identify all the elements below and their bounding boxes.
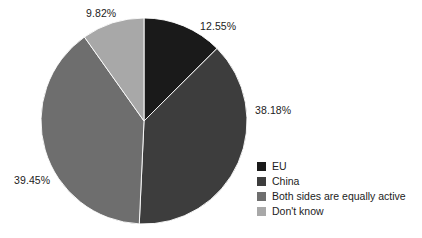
slice-value-label-dont-know: 9.82% (86, 8, 116, 19)
legend-item-label: EU (272, 161, 287, 172)
legend-swatch-icon (257, 192, 266, 201)
legend-item[interactable]: Both sides are equally active (257, 190, 406, 203)
legend-item[interactable]: China (257, 175, 406, 188)
legend-item-label: China (272, 176, 299, 187)
slice-value-label-china: 38.18% (255, 105, 291, 116)
legend-swatch-icon (257, 177, 266, 186)
pie-chart-figure: 9.82% 12.55% 38.18% 39.45% EUChinaBoth s… (0, 0, 422, 238)
legend-swatch-icon (257, 207, 266, 216)
legend-item[interactable]: Don't know (257, 205, 406, 218)
legend-item[interactable]: EU (257, 160, 406, 173)
legend-item-label: Both sides are equally active (272, 191, 406, 202)
legend-item-label: Don't know (272, 206, 324, 217)
chart-legend: EUChinaBoth sides are equally activeDon'… (257, 160, 406, 218)
slice-value-label-both-sides: 39.45% (14, 175, 50, 186)
slice-value-label-eu: 12.55% (200, 21, 236, 32)
legend-swatch-icon (257, 162, 266, 171)
